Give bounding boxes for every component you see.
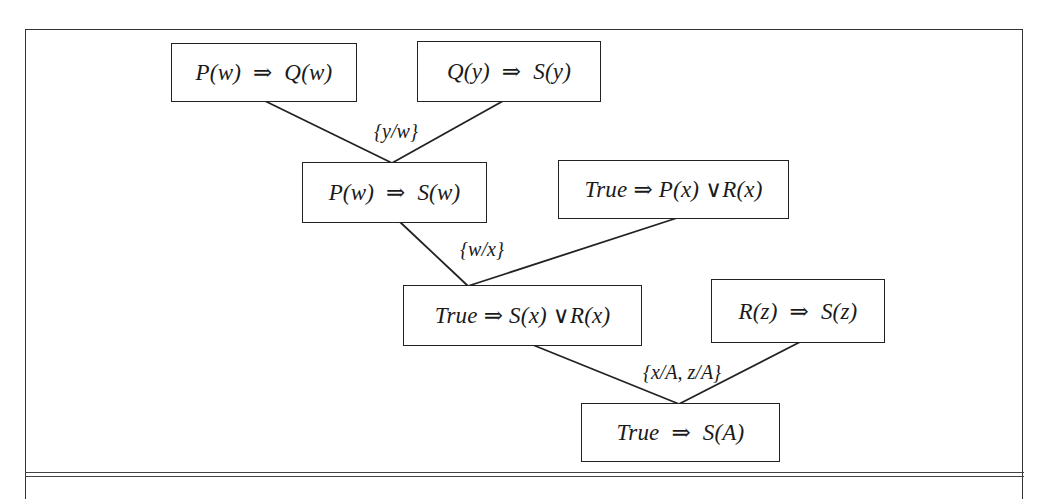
edge-n3-n5 [400, 222, 468, 286]
clause-node-true-implies-s-or-r: True ⇒ S(x) ∨R(x) [403, 285, 642, 346]
substitution-label-w-x: {w/x} [460, 238, 504, 261]
clause-node-true-implies-p-or-r: True ⇒ P(x) ∨R(x) [558, 160, 789, 219]
clause-node-true-implies-s-of-a: True ⇒ S(A) [581, 403, 780, 462]
substitution-label-y-w: {y/w} [374, 120, 418, 143]
clause-node-p-implies-s: P(w) ⇒ S(w) [302, 162, 487, 223]
clause-node-p-implies-q: P(w) ⇒ Q(w) [171, 43, 357, 102]
clause-node-q-implies-s: Q(y) ⇒ S(y) [417, 41, 601, 102]
edge-n1-n3 [265, 101, 392, 163]
substitution-label-x-a-z-a: {x/A, z/A} [643, 361, 721, 384]
clause-node-r-implies-s: R(z) ⇒ S(z) [711, 279, 885, 343]
